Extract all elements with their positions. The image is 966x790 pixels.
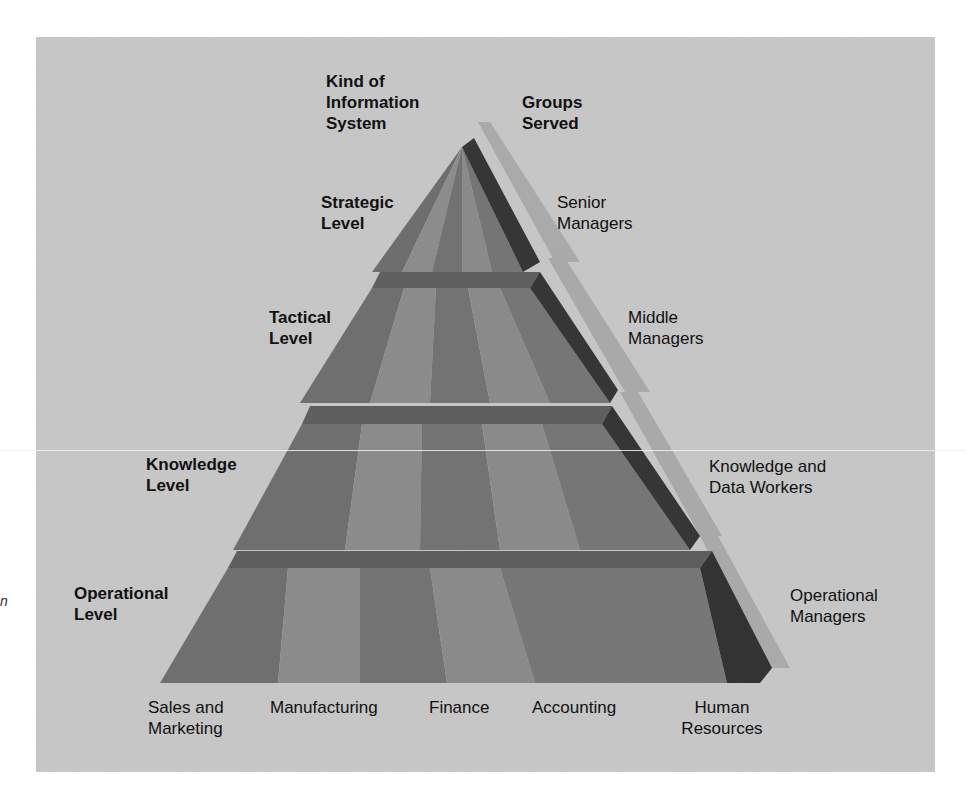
tier-strategic <box>372 138 540 272</box>
stray-glyph: n <box>0 593 8 609</box>
group-label-knowledge-data-workers: Knowledge andData Workers <box>709 456 826 498</box>
level-label-tactical: TacticalLevel <box>269 307 331 349</box>
pyramid-diagram <box>0 0 966 790</box>
group-label-operational-managers: OperationalManagers <box>790 585 878 627</box>
tier-knowledge <box>233 406 700 550</box>
area-label-sales-marketing: Sales andMarketing <box>148 697 224 739</box>
scan-line-artifact <box>0 450 966 451</box>
level-label-operational: OperationalLevel <box>74 583 168 625</box>
header-groups-served: Groups Served <box>522 92 582 134</box>
area-label-human-resources: HumanResources <box>672 697 772 739</box>
group-label-senior-managers: SeniorManagers <box>557 192 633 234</box>
area-label-accounting: Accounting <box>532 697 616 718</box>
level-label-strategic: StrategicLevel <box>321 192 394 234</box>
area-label-manufacturing: Manufacturing <box>270 697 378 718</box>
tier-operational <box>160 551 772 683</box>
header-kind-of-information-system: Kind of Information System <box>326 71 420 134</box>
group-label-middle-managers: MiddleManagers <box>628 307 704 349</box>
level-label-knowledge: KnowledgeLevel <box>146 454 237 496</box>
area-label-finance: Finance <box>429 697 489 718</box>
